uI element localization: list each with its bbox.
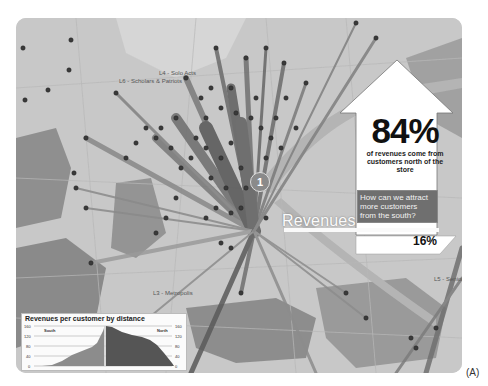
svg-text:120: 120 [24,334,31,339]
svg-text:40: 40 [26,354,31,359]
store-marker: 1 [250,172,270,192]
chart-title: Revenues per customer by distance [25,315,145,322]
north-description: of revenues come from customers north of… [364,150,446,174]
revenues-divider [284,228,439,232]
chart-south-label: South [44,328,56,333]
question-box: How can we attract more customers from t… [357,190,438,223]
svg-text:0: 0 [28,364,31,369]
revenue-distance-chart: Revenues per customer by distance 160 12… [21,313,187,371]
figure-label: (A) [466,367,479,378]
chart-north-label: North [157,328,168,333]
svg-text:120: 120 [175,334,182,339]
svg-text:160: 160 [24,324,31,329]
svg-text:40: 40 [175,354,180,359]
north-percentage: 84% [360,113,450,148]
svg-text:80: 80 [26,344,31,349]
svg-text:160: 160 [175,324,182,329]
south-percentage: 16% [395,234,455,248]
svg-text:80: 80 [175,344,180,349]
svg-text:0: 0 [175,364,178,369]
chart-plot: 160 120 80 40 0 160 120 80 40 0 South No… [22,323,186,369]
